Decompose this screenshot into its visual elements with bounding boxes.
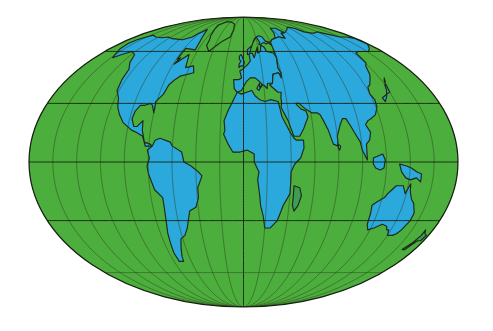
world-map-svg[interactable]: World Map Elliptical world map with gree…: [0, 0, 493, 331]
world-map-figure: World Map Elliptical world map with gree…: [0, 0, 493, 331]
